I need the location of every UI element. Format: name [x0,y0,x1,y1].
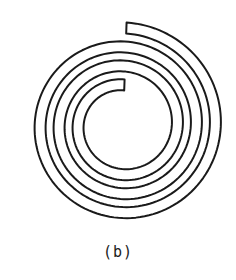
spiral-strip-outline [35,23,221,219]
spiral-diagram [0,0,236,280]
figure-caption: (b) [0,243,236,261]
